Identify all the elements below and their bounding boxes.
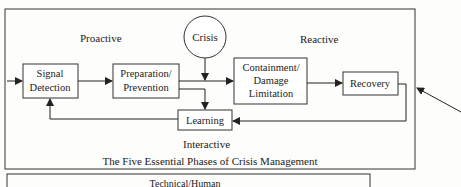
- containment-line1: Containment/: [242, 62, 299, 73]
- diagram-title: The Five Essential Phases of Crisis Mana…: [102, 155, 317, 167]
- crisis-management-diagram: Proactive Reactive Interactive Crisis Si…: [0, 0, 461, 187]
- containment-line3: Limitation: [249, 88, 294, 99]
- arrow-learning-to-signal: [50, 99, 178, 119]
- preparation-line1: Preparation/: [120, 68, 171, 79]
- preparation-line2: Prevention: [123, 82, 169, 93]
- signal-detection-line2: Detection: [30, 82, 72, 93]
- containment-line2: Damage: [254, 75, 289, 86]
- reactive-label: Reactive: [300, 33, 339, 45]
- signal-detection-line1: Signal: [37, 68, 64, 79]
- arrow-external-into-frame: [417, 88, 461, 112]
- proactive-label: Proactive: [80, 32, 122, 44]
- crisis-label: Crisis: [192, 31, 218, 43]
- arrow-preparation-to-learning: [179, 89, 205, 109]
- bottom-box-partial-text: Technical/Human: [150, 178, 221, 187]
- recovery-label: Recovery: [350, 78, 391, 89]
- interactive-label: Interactive: [183, 138, 230, 150]
- learning-label: Learning: [186, 115, 225, 126]
